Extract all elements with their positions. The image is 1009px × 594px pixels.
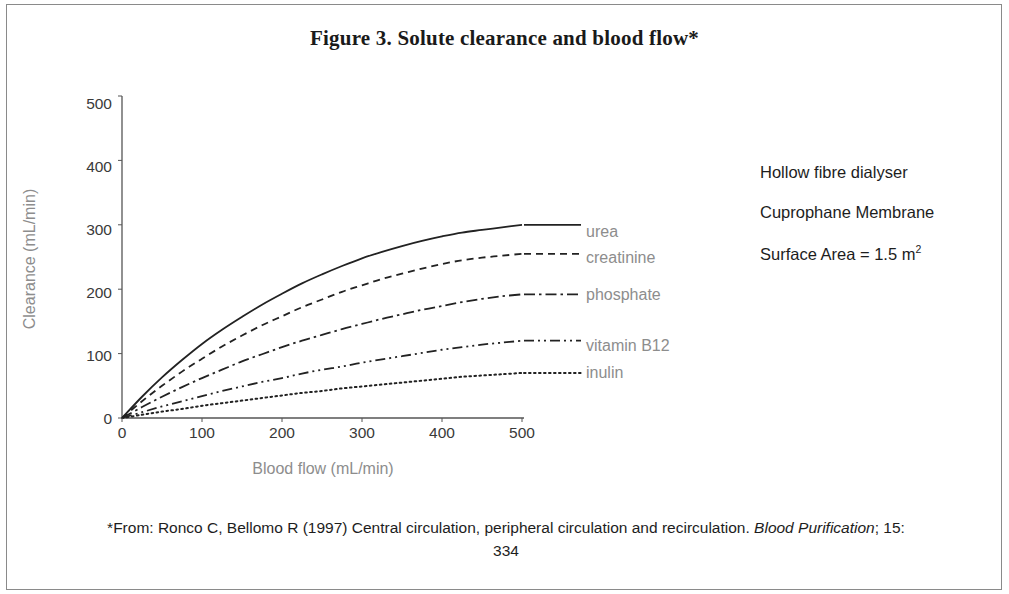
annotation-surface-area: Surface Area = 1.5 m2 (760, 243, 995, 264)
curve-label-phosphate: phosphate (586, 286, 661, 304)
annotation-membrane: Cuprophane Membrane (760, 203, 995, 222)
figure-container: Figure 3. Solute clearance and blood flo… (0, 0, 1009, 594)
footnote-journal-title: Blood Purification (754, 519, 875, 536)
chart-canvas (0, 0, 1009, 594)
y-tick-100: 100 (66, 347, 112, 365)
x-tick-500: 500 (492, 424, 552, 442)
y-axis-title: Clearance (mL/min) (21, 149, 39, 369)
x-tick-200: 200 (252, 424, 312, 442)
series-paths (118, 96, 522, 422)
curve-label-creatinine: creatinine (586, 249, 655, 267)
series-line-creatinine (122, 254, 522, 418)
x-tick-400: 400 (412, 424, 472, 442)
x-tick-100: 100 (172, 424, 232, 442)
curve-label-vitamin-b12: vitamin B12 (586, 337, 670, 355)
annotation-surface-area-exponent: 2 (915, 243, 921, 255)
series-line-urea (122, 225, 522, 418)
x-tick-0: 0 (92, 424, 152, 442)
footnote-text-before: *From: Ronco C, Bellomo R (1997) Central… (107, 519, 754, 536)
y-tick-300: 300 (66, 221, 112, 239)
annotation-dialyser: Hollow fibre dialyser (760, 163, 995, 182)
x-axis-title: Blood flow (mL/min) (122, 460, 524, 478)
series-line-vitamin-b12 (122, 341, 522, 418)
x-tick-300: 300 (332, 424, 392, 442)
annotation-surface-area-text: Surface Area = 1.5 m (760, 245, 915, 263)
curve-label-inulin: inulin (586, 364, 623, 382)
y-tick-200: 200 (66, 284, 112, 302)
series-line-inulin (122, 373, 522, 418)
y-tick-labels: 500 400 300 200 100 0 (66, 0, 112, 594)
curve-label-urea: urea (586, 223, 618, 241)
annotation-block: Hollow fibre dialyser Cuprophane Membran… (760, 163, 995, 285)
y-tick-500: 500 (66, 95, 112, 113)
plot-area: Clearance (mL/min) Blood flow (mL/min) 5… (0, 0, 1009, 594)
y-tick-400: 400 (66, 158, 112, 176)
legend-dash-markers (524, 225, 581, 373)
figure-footnote: *From: Ronco C, Bellomo R (1997) Central… (96, 516, 916, 562)
series-line-phosphate (122, 294, 522, 418)
